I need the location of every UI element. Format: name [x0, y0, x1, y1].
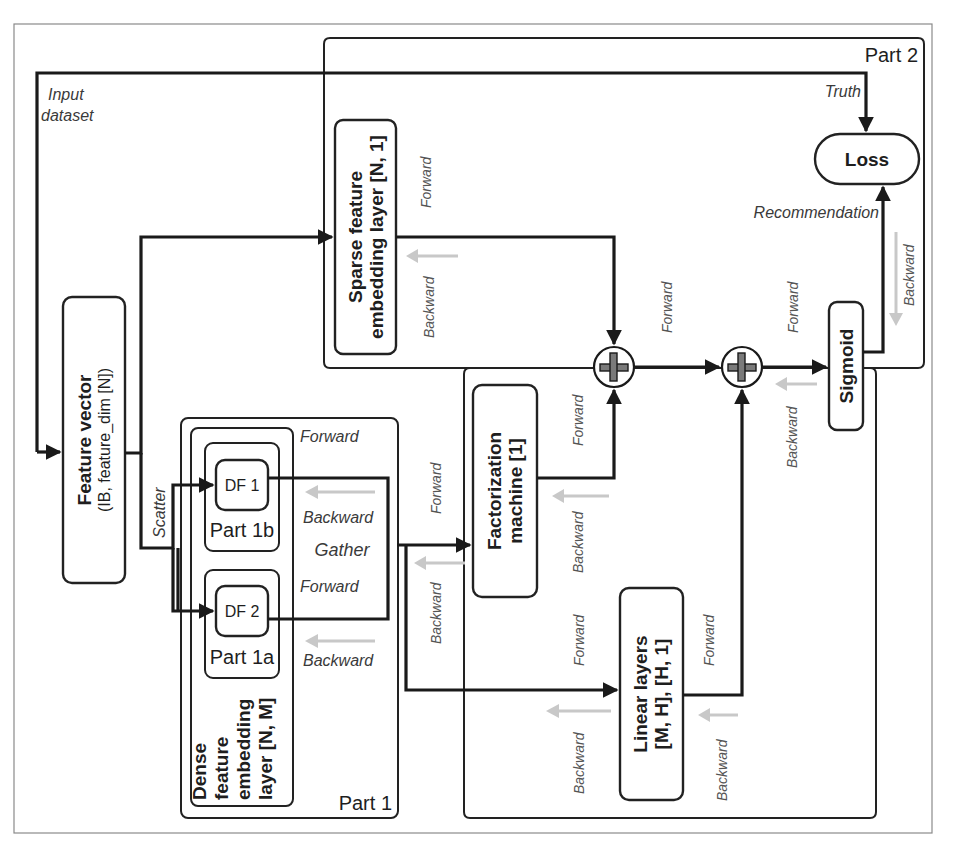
label-recommendation: Recommendation [754, 204, 880, 221]
sigmoid-text: Sigmoid [836, 329, 857, 404]
label-forward-sum1: Forward [659, 280, 675, 333]
label-backward-df2: Backward [303, 652, 374, 669]
dense-embedding-text: Dense feature embedding layer [N, M] [189, 698, 276, 800]
df2-label: DF 2 [225, 603, 260, 620]
label-truth: Truth [825, 83, 861, 100]
factorization-machine-text: Factorization machine [1] [484, 432, 526, 550]
edge-feature-to-sparse [125, 237, 332, 453]
label-backward-sigmoid: Backward [784, 405, 800, 468]
label-forward-linear-in: Forward [571, 613, 587, 666]
svg-text:Dense: Dense [189, 743, 210, 800]
label-scatter: Scatter [151, 487, 168, 538]
label-backward-linear-out: Backward [714, 738, 730, 801]
label-backward-df1: Backward [303, 509, 374, 526]
svg-text:Sparse feature: Sparse feature [345, 171, 366, 303]
label-gather: Gather [314, 540, 370, 560]
linear-layers-text: Linear layers [M, H], [H, 1] [630, 635, 672, 752]
svg-text:machine [1]: machine [1] [505, 438, 526, 544]
svg-text:Sigmoid: Sigmoid [836, 329, 857, 404]
label-backward-fm: Backward [570, 510, 586, 573]
loss-label: Loss [845, 149, 889, 170]
svg-text:layer [N, M]: layer [N, M] [255, 698, 276, 800]
label-forward-sum2: Forward [785, 280, 801, 333]
label-input: Input [48, 86, 84, 103]
label-backward-loss: Backward [901, 243, 917, 306]
df1-label: DF 1 [225, 477, 260, 494]
svg-text:embedding: embedding [233, 699, 254, 800]
label-forward-df2: Forward [300, 578, 360, 595]
label-backward-sparse: Backward [421, 275, 437, 338]
svg-text:(IB, feature_dim [N]): (IB, feature_dim [N]) [96, 368, 114, 512]
label-forward-sparse: Forward [418, 155, 434, 208]
label-forward-fm: Forward [570, 393, 586, 446]
sum-node-2[interactable] [722, 347, 762, 387]
svg-text:Factorization: Factorization [484, 432, 505, 550]
label-backward-gather: Backward [428, 581, 444, 644]
part1a-label: Part 1a [210, 646, 275, 668]
part1b-label: Part 1b [210, 519, 274, 541]
sum-node-1[interactable] [594, 347, 634, 387]
part1-label: Part 1 [339, 792, 392, 814]
part2-label: Part 2 [865, 44, 918, 66]
label-forward-linear-out: Forward [701, 613, 717, 666]
svg-text:feature: feature [211, 737, 232, 800]
label-forward-df1: Forward [300, 428, 360, 445]
label-forward-gather: Forward [428, 461, 444, 514]
label-backward-linear-in: Backward [571, 731, 587, 794]
architecture-diagram: Part 2 Part 1 Part 1b Part 1a DF 1 DF 2 … [0, 0, 957, 848]
svg-text:Feature vector: Feature vector [74, 374, 95, 506]
label-dataset: dataset [41, 107, 94, 124]
svg-text:Linear layers: Linear layers [630, 635, 651, 752]
feature-vector-text: Feature vector (IB, feature_dim [N]) [74, 368, 114, 512]
svg-text:[M, H], [H, 1]: [M, H], [H, 1] [651, 639, 672, 750]
svg-text:embedding layer [N, 1]: embedding layer [N, 1] [366, 135, 387, 339]
